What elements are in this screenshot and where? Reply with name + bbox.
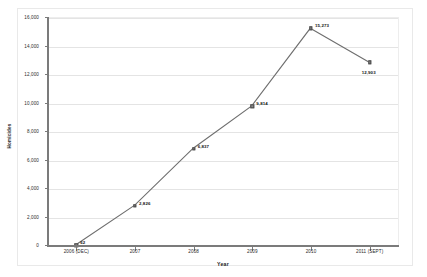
x-axis-tick-label: 2007 xyxy=(130,249,141,255)
data-point-label: 6,837 xyxy=(198,144,210,149)
y-axis-tick xyxy=(45,74,49,75)
y-axis-tick-label: 10,000 xyxy=(24,100,39,105)
y-axis-tick xyxy=(45,46,49,47)
y-axis-tick xyxy=(45,103,49,104)
y-axis-tick-label: 6,000 xyxy=(27,157,39,162)
x-axis-tick-label: 2010 xyxy=(306,249,317,255)
y-axis-tick xyxy=(45,217,49,218)
y-axis-tick-label: 2,000 xyxy=(27,214,39,219)
y-axis-tick-label: 0 xyxy=(36,243,39,248)
y-axis-tick-label: 8,000 xyxy=(27,129,39,134)
data-point-label: 2,826 xyxy=(139,201,151,206)
x-axis xyxy=(47,245,399,247)
x-axis-tick-labels: 2006 (DEC)20072008200920102011 (SEPT) xyxy=(47,249,399,261)
y-axis-tick-label: 16,000 xyxy=(24,15,39,20)
plot-area: 622,8266,8379,81415,27312,903 xyxy=(47,17,399,245)
data-point-labels: 622,8266,8379,81415,27312,903 xyxy=(47,18,398,245)
x-axis-tick-label: 2008 xyxy=(188,249,199,255)
y-axis-tick-label: 12,000 xyxy=(24,72,39,77)
y-axis-tick xyxy=(45,17,49,18)
y-axis-tick-label: 14,000 xyxy=(24,43,39,48)
y-axis-tick xyxy=(45,131,49,132)
y-axis xyxy=(47,17,49,245)
y-axis-tick xyxy=(45,188,49,189)
data-point-label: 15,273 xyxy=(315,23,329,28)
line-chart: 16,00014,00012,00010,0008,0006,0004,0002… xyxy=(0,0,427,277)
y-axis-tick-label: 4,000 xyxy=(27,186,39,191)
y-axis-tick xyxy=(45,160,49,161)
x-axis-tick-label: 2009 xyxy=(247,249,258,255)
x-axis-tick-label: 2006 (DEC) xyxy=(64,249,89,255)
x-axis-title: Year xyxy=(47,261,399,267)
data-point-label: 9,814 xyxy=(256,101,268,106)
x-axis-tick-label: 2011 (SEPT) xyxy=(356,249,383,255)
y-axis-title: Homicides xyxy=(7,7,17,265)
data-point-label: 12,903 xyxy=(362,70,376,75)
